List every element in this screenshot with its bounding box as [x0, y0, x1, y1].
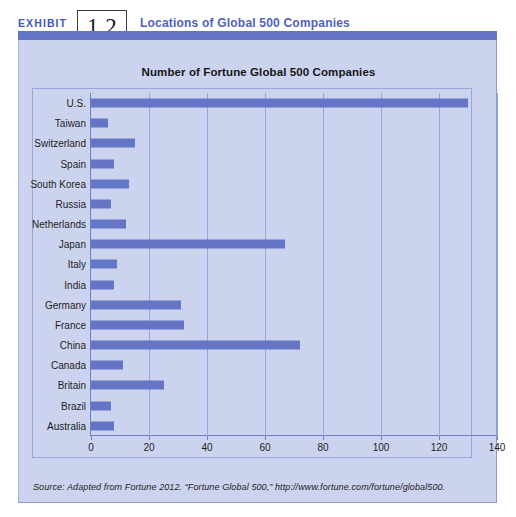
x-tick-label-0: 0: [88, 442, 94, 453]
category-label: Germany: [45, 299, 86, 310]
category-label: France: [55, 319, 86, 330]
x-tick-label-40: 40: [201, 442, 212, 453]
category-label: Netherlands: [32, 219, 86, 230]
bar: [91, 119, 108, 128]
plot-area: U.S.TaiwanSwitzerlandSpainSouth KoreaRus…: [90, 93, 496, 436]
x-tick-label-100: 100: [373, 442, 390, 453]
exhibit-title: Locations of Global 500 Companies: [140, 16, 350, 30]
gridline-140: [497, 93, 498, 436]
bar-row: U.S.: [91, 93, 497, 113]
category-label: China: [60, 340, 86, 351]
bar-row: Switzerland: [91, 133, 497, 153]
bar-row: Australia: [91, 416, 497, 436]
bar-row: Canada: [91, 355, 497, 375]
bar: [91, 240, 285, 249]
exhibit-page: EXHIBIT 1.2 Locations of Global 500 Comp…: [0, 0, 516, 517]
bar-row: France: [91, 315, 497, 335]
chart-card: Number of Fortune Global 500 Companies U…: [18, 40, 497, 503]
bar: [91, 139, 135, 148]
x-tick-120: [439, 436, 440, 440]
x-tick-60: [265, 436, 266, 440]
bar: [91, 401, 111, 410]
x-tick-40: [207, 436, 208, 440]
bar-row: Spain: [91, 154, 497, 174]
bar: [91, 300, 181, 309]
category-label: Taiwan: [55, 118, 86, 129]
bar-row: India: [91, 275, 497, 295]
bar-row: Taiwan: [91, 113, 497, 133]
x-tick-80: [323, 436, 324, 440]
category-label: Australia: [47, 420, 86, 431]
bar: [91, 320, 184, 329]
category-label: Brazil: [61, 400, 86, 411]
source-note: Source: Adapted from Fortune 2012. “Fort…: [33, 482, 445, 492]
bar-row: Japan: [91, 234, 497, 254]
category-label: U.S.: [67, 98, 86, 109]
category-label: Japan: [59, 239, 86, 250]
bar-row: Brazil: [91, 396, 497, 416]
x-tick-label-140: 140: [489, 442, 506, 453]
bar-row: Germany: [91, 295, 497, 315]
category-label: Italy: [68, 259, 86, 270]
bar: [91, 280, 114, 289]
category-label: Britain: [58, 380, 86, 391]
header-rule: [18, 31, 497, 40]
bar: [91, 179, 129, 188]
bar: [91, 220, 126, 229]
x-tick-label-60: 60: [259, 442, 270, 453]
x-tick-0: [91, 436, 92, 440]
x-tick-100: [381, 436, 382, 440]
bar: [91, 341, 300, 350]
bar-row: Italy: [91, 254, 497, 274]
bar: [91, 159, 114, 168]
x-tick-label-20: 20: [143, 442, 154, 453]
chart-title: Number of Fortune Global 500 Companies: [19, 66, 498, 78]
category-label: Canada: [51, 360, 86, 371]
bar: [91, 381, 164, 390]
x-tick-140: [497, 436, 498, 440]
bar-row: Netherlands: [91, 214, 497, 234]
x-tick-label-80: 80: [317, 442, 328, 453]
plot-frame: U.S.TaiwanSwitzerlandSpainSouth KoreaRus…: [32, 88, 472, 458]
bar: [91, 260, 117, 269]
bar: [91, 361, 123, 370]
category-label: South Korea: [30, 178, 86, 189]
category-label: Russia: [55, 198, 86, 209]
category-label: Spain: [60, 158, 86, 169]
category-label: India: [64, 279, 86, 290]
exhibit-label: EXHIBIT: [18, 17, 67, 29]
x-tick-label-120: 120: [431, 442, 448, 453]
bar-row: Britain: [91, 375, 497, 395]
bar: [91, 199, 111, 208]
x-tick-20: [149, 436, 150, 440]
bar-rows: U.S.TaiwanSwitzerlandSpainSouth KoreaRus…: [91, 93, 497, 436]
bar: [91, 99, 468, 108]
bar-row: Russia: [91, 194, 497, 214]
source-text: Source: Adapted from Fortune 2012. “Fort…: [33, 482, 445, 492]
bar-row: South Korea: [91, 174, 497, 194]
bar: [91, 421, 114, 430]
category-label: Switzerland: [34, 138, 86, 149]
bar-row: China: [91, 335, 497, 355]
